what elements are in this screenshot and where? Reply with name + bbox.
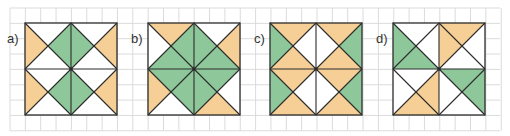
pattern-b-label: b) [131,32,143,45]
pattern-a [25,23,117,115]
pattern-d [393,23,485,115]
pattern-d-label: d) [376,32,388,45]
pattern-b [148,23,240,115]
pattern-diagram [0,0,510,136]
pattern-a-label: a) [7,32,19,45]
pattern-c-label: c) [254,32,265,45]
pattern-c [270,23,362,115]
